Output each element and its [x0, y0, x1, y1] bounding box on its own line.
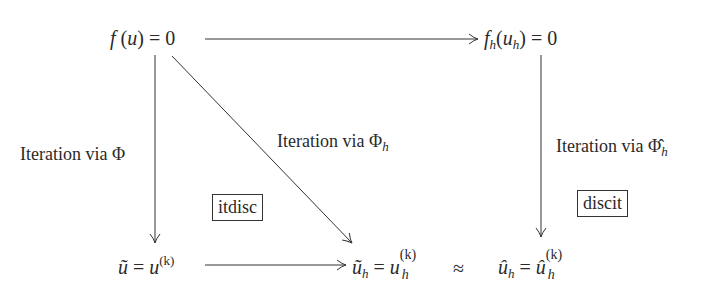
label-prefix: Iteration via [277, 131, 369, 151]
paren: ) [137, 27, 144, 49]
symbol-u: u [503, 27, 513, 49]
subscript-h: h [382, 139, 389, 154]
symbol-u-tilde: ũ [352, 256, 362, 278]
node-continuous-iterate: ũ = u(k) [118, 257, 174, 277]
symbol-phi: Φ [112, 144, 125, 164]
subscript-h: h [548, 268, 555, 282]
equals-zero: = 0 [149, 27, 175, 49]
node-discretized-iterate: ũh = u(k)h [352, 257, 426, 277]
symbol-u-tilde: ũ [118, 256, 128, 278]
superscript-k: (k) [159, 253, 174, 268]
symbol-f: f [110, 27, 116, 49]
label-prefix: Iteration via [20, 144, 112, 164]
subscript-h: h [402, 268, 409, 282]
paren: ) [519, 27, 526, 49]
symbol-phi-hat: Φ̂ [648, 136, 661, 156]
subscript-h: h [362, 266, 369, 281]
node-discrete-equation: fh(uh) = 0 [484, 28, 557, 48]
equals: = [133, 256, 144, 278]
equals-zero: = 0 [531, 27, 557, 49]
label-iteration-phi: Iteration via Φ [20, 145, 125, 163]
node-discrete-iterate: ûh = û(k)h [498, 257, 572, 277]
symbol-u-hat: û [498, 256, 508, 278]
paren: ( [496, 27, 503, 49]
label-prefix: Iteration via [556, 136, 648, 156]
equals: = [520, 256, 531, 278]
symbol-u: u [127, 27, 137, 49]
symbol-u: u [149, 256, 159, 278]
approx-symbol: ≈ [453, 258, 464, 278]
subscript-h: h [661, 144, 668, 159]
symbol-u-hat: û [536, 256, 546, 278]
sup-sub-stack: (k)h [546, 264, 572, 274]
symbol-u: u [390, 256, 400, 278]
superscript-k: (k) [400, 248, 416, 262]
equals: = [374, 256, 385, 278]
symbol-phi: Φ [369, 131, 382, 151]
sup-sub-stack: (k)h [400, 264, 426, 274]
box-itdisc: itdisc [212, 194, 263, 221]
subscript-h: h [508, 266, 515, 281]
box-discit: discit [577, 190, 628, 217]
node-continuous-equation: f (u) = 0 [110, 28, 175, 48]
label-iteration-phi-hat-h: Iteration via Φ̂h [556, 137, 668, 155]
superscript-k: (k) [546, 248, 562, 262]
label-iteration-phi-h: Iteration via Φh [277, 132, 389, 150]
